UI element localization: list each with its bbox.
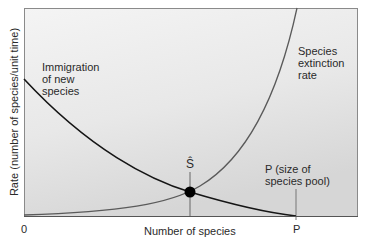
extinction-label: Species extinction rate [298, 45, 344, 81]
pool-label-line2: species pool) [265, 175, 330, 187]
immigration-label-line2: of new [42, 73, 99, 85]
x-axis-label: Number of species [144, 225, 236, 237]
pool-label: P (size of species pool) [265, 163, 330, 187]
extinction-label-line3: rate [298, 69, 344, 81]
x-tick-p: P [293, 223, 300, 235]
immigration-label: Immigration of new species [42, 61, 99, 97]
immigration-label-line1: Immigration [42, 61, 99, 73]
y-axis-label: Rate (number of species/unit time) [8, 27, 20, 197]
extinction-label-line1: Species [298, 45, 344, 57]
x-tick-zero: 0 [21, 223, 27, 235]
pool-label-line1: P (size of [265, 163, 330, 175]
s-hat-label: Ŝ [186, 158, 194, 170]
extinction-label-line2: extinction [298, 57, 344, 69]
equilibrium-point [185, 187, 196, 198]
chart-canvas [0, 0, 366, 240]
immigration-label-line3: species [42, 85, 99, 97]
